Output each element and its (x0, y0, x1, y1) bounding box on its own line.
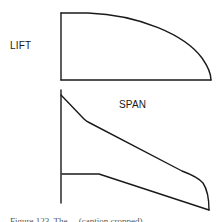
diagram-canvas (0, 0, 220, 222)
lift-axis-label: LIFT (10, 40, 31, 51)
wing-trailing-edge (62, 174, 209, 210)
lift-distribution-line (61, 13, 211, 80)
figure-caption: Figure 123. The ... (caption cropped) (10, 216, 143, 222)
wing-leading-edge (61, 95, 209, 210)
span-axis-label: SPAN (119, 99, 146, 110)
lift-span-diagram: LIFT SPAN Figure 123. The ... (caption c… (0, 0, 220, 222)
lift-distribution-curve (61, 13, 211, 80)
